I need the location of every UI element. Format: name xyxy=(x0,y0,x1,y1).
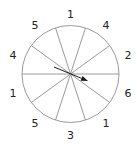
section-label: 4 xyxy=(103,19,110,32)
section-label: 4 xyxy=(9,49,16,62)
section-label: 2 xyxy=(125,49,132,62)
arrow-head-icon xyxy=(81,76,88,81)
spinner-diagram: 1426135145 xyxy=(0,0,137,148)
section-label: 3 xyxy=(67,129,74,142)
section-label: 1 xyxy=(103,117,110,130)
section-label: 1 xyxy=(9,87,16,100)
section-label: 6 xyxy=(125,87,132,100)
section-label: 5 xyxy=(31,19,38,32)
section-label: 5 xyxy=(31,117,38,130)
section-label: 1 xyxy=(67,8,74,21)
